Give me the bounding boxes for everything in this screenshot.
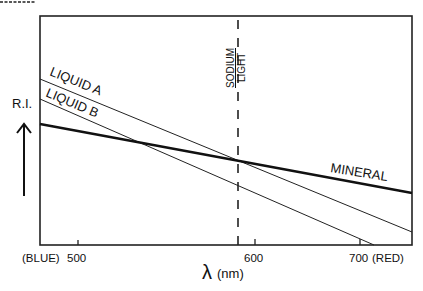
tick-label-700: 700 [349, 252, 368, 264]
refractive-index-chart: LIQUID A LIQUID B MINERAL SODIUM LIGHT R… [0, 0, 423, 291]
x-axis-lambda: λ [202, 261, 212, 283]
y-axis-label: R.I. [12, 96, 32, 111]
x-axis-units: (nm) [217, 266, 244, 281]
up-arrow-icon [17, 124, 31, 196]
series-liquid-b [40, 99, 374, 245]
tick-label-600: 600 [244, 252, 263, 264]
series-liquid-a [40, 79, 412, 232]
tick-label-blue: (BLUE) [22, 252, 60, 264]
series-mineral [40, 124, 412, 193]
tick-label-red: (RED) [372, 252, 404, 264]
label-sodium: SODIUM [225, 48, 236, 88]
tick-label-500: 500 [67, 252, 86, 264]
label-light: LIGHT [236, 53, 247, 82]
